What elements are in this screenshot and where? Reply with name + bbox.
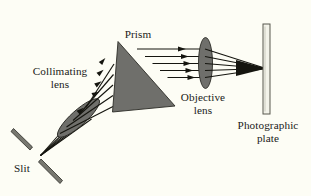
collimating-lens-label-line2: lens bbox=[51, 78, 69, 90]
photographic-plate-label-line1: Photographic bbox=[238, 119, 299, 131]
diagram-canvas: Prism Collimating lens Objective lens Ph… bbox=[0, 0, 311, 196]
slit-label: Slit bbox=[14, 162, 31, 174]
photographic-plate-label-line2: plate bbox=[257, 132, 279, 144]
photographic-plate bbox=[263, 24, 270, 114]
objective-lens-label-line2: lens bbox=[194, 104, 212, 116]
objective-lens-label-line1: Objective bbox=[181, 91, 225, 103]
prism-label: Prism bbox=[125, 28, 152, 40]
optics-diagram: Prism Collimating lens Objective lens Ph… bbox=[0, 0, 311, 196]
photographic-plate-body bbox=[263, 24, 270, 114]
collimating-lens-label-line1: Collimating bbox=[33, 65, 88, 77]
